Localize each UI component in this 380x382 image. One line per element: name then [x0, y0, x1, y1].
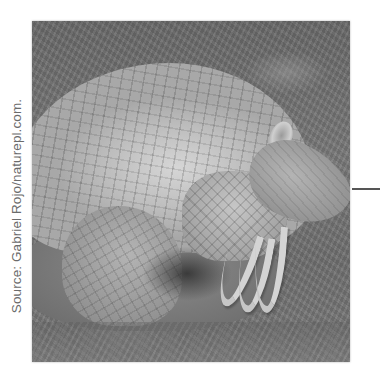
annotation-leader-line — [352, 188, 380, 190]
ground — [32, 322, 350, 362]
armadillo-photo — [32, 21, 350, 362]
photo-credit: Source: Gabriel Rojo/naturepl.com. — [9, 99, 24, 313]
